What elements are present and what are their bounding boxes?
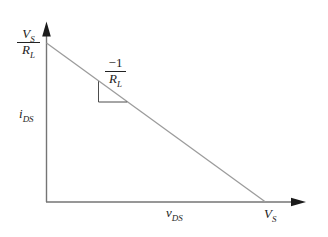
slope-denominator: RL bbox=[109, 72, 122, 86]
y-intercept-label: VS RL bbox=[17, 27, 40, 57]
x-intercept-label-sub: S bbox=[272, 214, 277, 224]
x-intercept-label-base: V bbox=[264, 206, 272, 221]
y-intercept-denominator: RL bbox=[22, 43, 35, 57]
y-axis-arrowhead bbox=[42, 22, 51, 37]
y-axis-label: iDS bbox=[19, 107, 34, 121]
plot-canvas bbox=[0, 0, 328, 237]
slope-numerator-text: −1 bbox=[109, 55, 123, 70]
x-intercept-label: VS bbox=[264, 207, 276, 221]
y-axis-label-sub: DS bbox=[23, 114, 34, 124]
slope-den-base: R bbox=[109, 71, 117, 86]
y-intercept-den-sub: L bbox=[30, 50, 35, 60]
x-axis-label-sub: DS bbox=[172, 213, 183, 223]
load-line-figure: VS RL −1 RL iDS vDS VS bbox=[0, 0, 328, 237]
load-line bbox=[47, 43, 266, 202]
slope-numerator: −1 bbox=[109, 56, 123, 70]
x-axis-arrowhead bbox=[291, 198, 306, 206]
slope-den-sub: L bbox=[117, 79, 122, 89]
y-intercept-den-base: R bbox=[22, 42, 30, 57]
y-intercept-numerator: VS bbox=[22, 27, 34, 41]
slope-label: −1 RL bbox=[105, 56, 126, 86]
x-axis-label: vDS bbox=[166, 206, 183, 220]
